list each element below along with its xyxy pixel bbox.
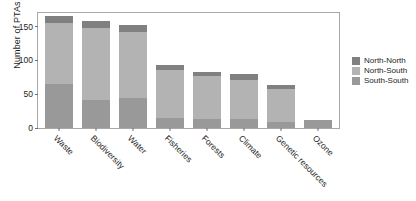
chart-legend: North-NorthNorth-SouthSouth-South (352, 56, 408, 85)
x-axis-tick-label: Water (126, 133, 149, 156)
y-axis-tick: 0 (28, 123, 38, 133)
legend-swatch (352, 77, 360, 85)
y-axis-tick: 50 (24, 89, 38, 99)
x-axis-tick-mark (170, 128, 171, 131)
y-axis-tick-label: 150 (19, 22, 35, 32)
bar-slot: Fisheries (152, 13, 189, 128)
stacked-bar[interactable] (119, 25, 147, 128)
bar-segment-north-south[interactable] (193, 76, 221, 119)
x-axis-tick-label: Waste (52, 133, 76, 157)
bar-slot: Forests (189, 13, 226, 128)
x-axis-tick-mark (317, 128, 318, 131)
bar-slot: Waste (41, 13, 78, 128)
bar-segment-south-south[interactable] (230, 119, 258, 128)
plot-area: 050100150 WasteBiodiversityWaterFisherie… (37, 12, 340, 129)
bar-segment-south-south[interactable] (156, 118, 184, 128)
bar-segment-north-south[interactable] (119, 32, 147, 98)
x-axis-tick-mark (59, 128, 60, 131)
x-axis-tick-label: Ozone (310, 133, 335, 158)
stacked-bar[interactable] (156, 65, 184, 128)
bar-slot: Water (115, 13, 152, 128)
bar-segment-north-south[interactable] (267, 89, 295, 121)
bar-slot: Genetic resources (262, 13, 299, 128)
legend-label: North-North (364, 56, 406, 65)
bar-slot: Ozone (299, 13, 336, 128)
y-axis-label: Number of PTAs (12, 0, 22, 90)
x-axis-tick-mark (133, 128, 134, 131)
bar-segment-north-south[interactable] (230, 80, 258, 119)
bar-segment-south-south[interactable] (193, 119, 221, 128)
bar-segment-north-south[interactable] (82, 28, 110, 100)
x-axis-tick-label: Climate (237, 133, 264, 160)
bar-segment-south-south[interactable] (304, 120, 332, 128)
stacked-bar[interactable] (193, 72, 221, 128)
bar-segment-north-south[interactable] (156, 70, 184, 118)
legend-item[interactable]: North-North (352, 56, 408, 65)
x-axis-tick-label: Fisheries (163, 133, 194, 164)
bar-slot: Biodiversity (78, 13, 115, 128)
y-axis-tick: 150 (19, 22, 38, 32)
y-axis-tick-label: 0 (28, 123, 35, 133)
legend-swatch (352, 67, 360, 75)
x-axis-tick-mark (96, 128, 97, 131)
legend-item[interactable]: South-South (352, 76, 408, 85)
bar-segment-north-south[interactable] (45, 23, 73, 84)
stacked-bar[interactable] (267, 85, 295, 128)
x-axis-tick-mark (280, 128, 281, 131)
legend-label: South-South (364, 76, 408, 85)
bar-segment-south-south[interactable] (119, 98, 147, 128)
bar-group: WasteBiodiversityWaterFisheriesForestsCl… (38, 13, 339, 128)
chart-figure: Number of PTAs 050100150 WasteBiodiversi… (0, 0, 416, 201)
legend-item[interactable]: North-South (352, 66, 408, 75)
bar-segment-north-north[interactable] (45, 16, 73, 23)
bar-segment-north-north[interactable] (119, 25, 147, 32)
bar-slot: Climate (225, 13, 262, 128)
y-axis-tick: 100 (19, 55, 38, 65)
stacked-bar[interactable] (230, 74, 258, 128)
bar-segment-south-south[interactable] (82, 100, 110, 128)
y-axis-tick-label: 50 (24, 89, 35, 99)
x-axis-tick-mark (243, 128, 244, 131)
y-axis-tick-label: 100 (19, 55, 35, 65)
legend-label: North-South (364, 66, 407, 75)
x-axis-tick-label: Forests (200, 133, 227, 160)
bar-segment-south-south[interactable] (45, 84, 73, 128)
x-axis-tick-mark (206, 128, 207, 131)
legend-swatch (352, 57, 360, 65)
stacked-bar[interactable] (82, 21, 110, 128)
stacked-bar[interactable] (45, 16, 73, 128)
x-axis-tick-label: Biodiversity (89, 133, 127, 171)
bar-segment-north-north[interactable] (82, 21, 110, 28)
stacked-bar[interactable] (304, 120, 332, 128)
